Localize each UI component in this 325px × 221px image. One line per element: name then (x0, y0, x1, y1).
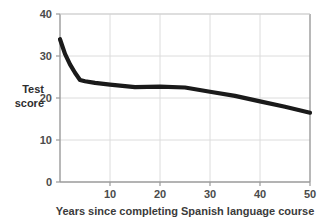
y-tick-label-30: 30 (40, 50, 52, 62)
y-axis-label-line2: score (15, 97, 44, 109)
x-axis-title: Years since completing Spanish language … (56, 205, 315, 217)
x-tick-label-40: 40 (254, 188, 266, 200)
x-tick-label-20: 20 (154, 188, 166, 200)
chart-svg: 40 30 20 10 0 10 20 30 40 50 Test score … (0, 0, 325, 221)
line-chart-figure: 40 30 20 10 0 10 20 30 40 50 Test score … (0, 0, 325, 221)
x-tick-label-10: 10 (104, 188, 116, 200)
x-tick-label-30: 30 (204, 188, 216, 200)
y-axis-label-line1: Test (22, 83, 44, 95)
y-tick-label-0: 0 (46, 176, 52, 188)
x-tick-label-50: 50 (304, 188, 316, 200)
y-tick-label-40: 40 (40, 8, 52, 20)
y-tick-label-10: 10 (40, 134, 52, 146)
